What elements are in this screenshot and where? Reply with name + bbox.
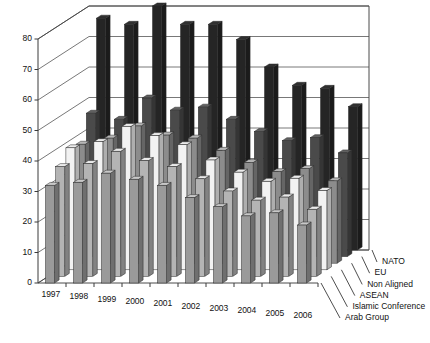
chart-container: 01020304050607080 1997199819992000200120… [0, 0, 430, 343]
x-axis-tick-label: 2000 [125, 296, 144, 306]
x-axis-tick-label: 1998 [69, 291, 88, 301]
x-axis-tick-label: 1997 [41, 289, 60, 299]
legend-entry-non-aligned: Non Aligned [367, 279, 413, 289]
y-axis-tick-label: 0 [27, 277, 32, 287]
y-axis-tick-label: 40 [23, 155, 33, 165]
y-axis-tick-label: 70 [23, 64, 33, 74]
y-axis-tick-label: 30 [23, 186, 33, 196]
x-axis-tick-label: 2003 [209, 303, 228, 313]
bar-3d [130, 176, 144, 283]
bar-chart-3d: 01020304050607080 1997199819992000200120… [0, 0, 430, 343]
legend-entry-eu: EU [375, 267, 387, 277]
x-axis-tick-label: 2001 [153, 298, 172, 308]
bar-3d [102, 170, 116, 283]
x-axis-tick-label: 2005 [265, 308, 284, 318]
x-axis-tick-label: 2002 [181, 301, 200, 311]
y-axis-tick-label: 20 [23, 216, 33, 226]
y-axis-tick-label: 10 [23, 247, 33, 257]
bar-3d [214, 204, 228, 283]
bar-3d [74, 179, 88, 283]
bar-3d [242, 213, 256, 283]
bars-layer [46, 3, 363, 283]
legend-entry-nato: NATO [382, 256, 405, 266]
bar-3d [158, 182, 172, 283]
x-axis-tick-labels: 1997199819992000200120022003200420052006 [41, 289, 312, 320]
y-axis-tick-label: 60 [23, 94, 33, 104]
x-axis-tick-label: 1999 [97, 294, 116, 304]
bar-3d [270, 210, 284, 283]
bar-3d [298, 222, 312, 283]
y-axis-tick-labels: 01020304050607080 [23, 33, 33, 287]
legend-entry-arab-group: Arab Group [345, 312, 389, 322]
y-axis-tick-label: 80 [23, 33, 33, 43]
legend-entry-islamic-conference: Islamic Conference [352, 301, 425, 311]
y-axis-tick-label: 50 [23, 125, 33, 135]
bar-3d [186, 195, 200, 283]
x-axis-tick-label: 2006 [293, 310, 312, 320]
legend-entry-asean: ASEAN [360, 290, 389, 300]
bar-3d [46, 182, 60, 283]
x-axis-tick-label: 2004 [237, 305, 256, 315]
